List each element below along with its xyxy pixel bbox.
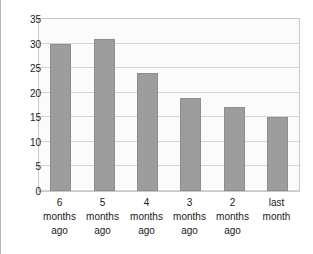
y-tick-label-20: 20 (15, 87, 41, 98)
gridline-25 (39, 67, 299, 68)
x-tick-label-line: ago (38, 224, 81, 238)
bar (137, 73, 158, 191)
bar-chart: 35302520151050 6monthsago5monthsago4mont… (0, 0, 313, 254)
x-tick-label-line: months (81, 210, 124, 224)
x-tick-label-line: months (125, 210, 168, 224)
x-tick-label-group: 6monthsago (38, 196, 81, 238)
x-tick-label-line: months (38, 210, 81, 224)
x-tick-label-line: 2 (211, 196, 254, 210)
x-tick-label-line: 6 (38, 196, 81, 210)
x-tick-label-line: month (255, 210, 298, 224)
x-axis-labels: 6monthsago5monthsago4monthsago3monthsago… (38, 196, 300, 252)
y-tick-label-25: 25 (15, 63, 41, 74)
bar (94, 39, 115, 191)
plot-area (38, 18, 300, 192)
x-tick-label-group: lastmonth (255, 196, 298, 224)
x-tick-label-line: ago (125, 224, 168, 238)
x-tick-label-line: 3 (168, 196, 211, 210)
bar (267, 117, 288, 191)
x-tick-label-line: ago (81, 224, 124, 238)
x-tick-label-group: 5monthsago (81, 196, 124, 238)
x-tick-label-line: months (168, 210, 211, 224)
x-tick-label-line: 5 (81, 196, 124, 210)
gridline-10 (39, 141, 299, 142)
bar (180, 98, 201, 191)
y-tick-label-15: 15 (15, 112, 41, 123)
x-tick-label-group: 3monthsago (168, 196, 211, 238)
plot-inner (39, 19, 299, 191)
gridline-15 (39, 116, 299, 117)
gridline-30 (39, 43, 299, 44)
y-tick-label-5: 5 (15, 161, 41, 172)
y-tick-label-35: 35 (15, 14, 41, 25)
bar (224, 107, 245, 191)
y-tick-label-0: 0 (15, 186, 41, 197)
x-tick-label-line: ago (168, 224, 211, 238)
y-tick-label-10: 10 (15, 136, 41, 147)
bar (50, 44, 71, 191)
x-tick-label-group: 4monthsago (125, 196, 168, 238)
x-tick-label-line: ago (211, 224, 254, 238)
chart-page: Table below: No. of visits / contacts ea… (0, 0, 313, 254)
gridline-5 (39, 165, 299, 166)
x-tick-label-line: 4 (125, 196, 168, 210)
y-tick-label-30: 30 (15, 38, 41, 49)
x-tick-label-group: 2monthsago (211, 196, 254, 238)
gridline-20 (39, 92, 299, 93)
x-tick-label-line: months (211, 210, 254, 224)
x-tick-label-line: last (255, 196, 298, 210)
